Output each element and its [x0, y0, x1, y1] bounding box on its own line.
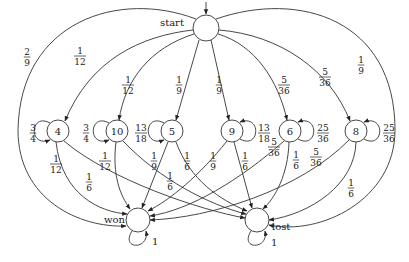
start-label: start: [160, 17, 184, 28]
lost-label: lost: [272, 221, 290, 232]
lost-self-loop-label: 1: [271, 237, 277, 248]
label-layer: start won lost 1 1: [0, 0, 409, 262]
won-self-loop-label: 1: [152, 236, 158, 247]
won-label: won: [104, 214, 125, 225]
